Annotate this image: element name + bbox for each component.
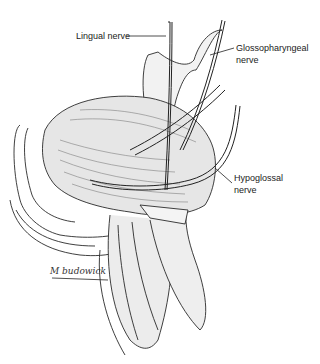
hypoglossal-nerve-label-line1: Hypoglossal (234, 173, 283, 184)
lingual-nerve-label: Lingual nerve (76, 31, 130, 42)
hypoglossal-nerve-label-line2: nerve (234, 185, 257, 196)
artist-signature: M budowick (50, 266, 106, 276)
glossopharyngeal-nerve-label-line1: Glossopharyngeal (236, 43, 309, 54)
glossopharyngeal-nerve-label-line2: nerve (236, 55, 259, 66)
anatomical-illustration: Lingual nerve Glossopharyngeal nerve Hyp… (0, 0, 320, 364)
